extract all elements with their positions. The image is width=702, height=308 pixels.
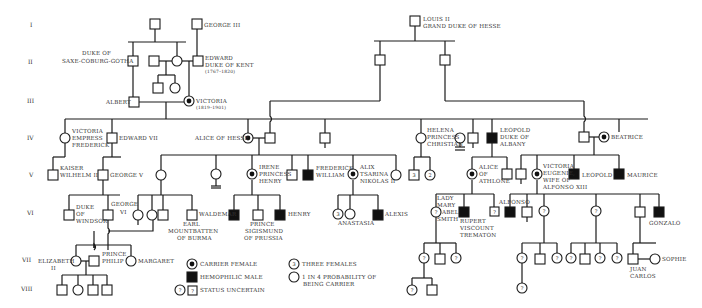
male-node-george-iii [192,19,202,29]
uncertain-mark: ? [543,208,546,214]
label-henry: HENRY [288,211,311,217]
legend-probability-carrier-icon [289,272,299,282]
uncertain-mark: ? [435,209,438,215]
label-saxe-coburg-gotha: SAXE-COBURG-GOTHA [62,58,134,64]
male-node-george-v [98,170,108,180]
label-juan-carlos-2: CARLOS [630,273,656,279]
label-alice-athlone-1: ALICE [478,164,498,170]
carrier-node-victoria [184,96,194,106]
label-albert: ALBERT [105,99,131,105]
label-victoria-empress-3: FREDERICK [72,142,110,148]
generation-label-i: I [30,21,33,28]
generation-labels: I II III IV V VI VII VIII [20,21,35,292]
label-mountbatten-2: MOUNTBATTEN [168,228,218,234]
female-node-gen-vi-a [133,210,143,220]
label-victoria-eugenie-4: ALFONSO XIII [542,184,587,190]
male-node-juan-carlos [628,254,638,264]
label-rupert-3: TREMATON [460,232,496,238]
uncertain-mark: ? [493,209,496,215]
count-two-females: 2 [428,172,431,178]
label-juan-carlos-1: JUAN [629,266,647,273]
label-mountbatten-3: OF BURMA [177,235,212,241]
male-node-mountbatten [187,210,197,220]
label-duke-windsor-3: WINDSOR [76,218,108,224]
legend-hemophilic-male-label: HEMOPHILIC MALE [200,274,263,280]
male-node-duke-of-windsor [64,210,74,220]
male-node-viii-b [88,285,98,295]
label-lady-mary-1: LADY [437,195,454,201]
label-helena-1: HELENA [427,127,455,133]
female-node-gen-vi-b [147,210,157,220]
label-edward-dates: (1767–1820) [205,69,235,74]
male-node-gen-ii [149,56,159,66]
label-edward-vii: EDWARD VII [119,135,158,141]
male-node-sigismund [253,210,263,220]
label-rupert-2: VISCOUNT [459,225,494,231]
label-duke-windsor-1: DUKE [76,204,94,210]
hemophilic-node-alexis [373,210,383,220]
generation-label-iii: III [27,97,35,104]
legend-status-uncertain-label: STATUS UNCERTAIN [200,287,265,293]
female-node-victoria-empress [60,133,70,143]
male-node-eugenie-son [522,207,532,217]
label-alix-3: NIKOLAS II [360,178,396,184]
hemophilic-node-alfonso [505,207,515,217]
label-rupert-1: RUPERT [460,218,486,224]
legend-three-females: 3 THREE FEMALES [289,259,357,269]
label-duke-of-kent: DUKE OF KENT [205,62,254,68]
uncertain-mark: ? [423,255,426,261]
label-irene-2: PRINCESS [259,171,292,177]
legend-hemophilic-male: HEMOPHILIC MALE [187,272,263,282]
legend-hemophilic-male-icon [187,272,197,282]
count-three-males: 3 [412,172,415,178]
uncertain-mark: ? [411,287,414,293]
label-alfonso: ALFONSO [498,199,530,205]
uncertain-mark: ? [599,255,602,261]
female-node-anastasia [345,209,355,219]
female-node-sophie [650,254,660,264]
male-node-gen-iv-b [468,133,478,143]
male-node-juan-carlos-father [635,207,645,217]
male-node-beatrice-son [516,169,526,179]
carrier-node-alice-athlone [467,169,477,179]
male-node-hesse-a [375,55,385,65]
label-victoria-eugenie-3: WIFE OF [543,177,571,183]
label-victoria-eugenie-2: EUGENIE, [543,170,575,176]
carrier-node-beatrice [599,132,609,142]
male-node-kaiser [48,170,58,180]
label-alix-1: ALIX [359,164,375,170]
legend-three-females-label: THREE FEMALES [302,261,357,267]
label-beatrice: BEATRICE [611,134,643,140]
label-elizabeth-2: II [51,265,56,271]
generation-label-iv: IV [27,134,34,141]
carrier-node-victoria-eugenie [532,169,542,179]
male-node-hesse-b [440,55,450,65]
label-leopold-albany-1: LEOPOLD [500,127,531,133]
hemophilic-node-frederick-william [303,170,313,180]
label-elizabeth-1: ELIZABETH [38,258,75,264]
generation-label-vi: VI [26,209,34,216]
label-alice-athlone-2: OF [479,171,488,177]
female-node-helena [416,133,426,143]
male-node-viii-a [57,285,67,295]
male-node-gen-i [150,19,160,29]
label-victoria-empress-2: EMPRESS [72,135,103,141]
uncertain-mark: ? [616,255,619,261]
label-philip-2: PHILIP [102,258,124,264]
label-victoria-dates: (1819–1901) [196,105,226,110]
male-node-vii-b [535,254,545,264]
uncertain-mark: ? [570,255,573,261]
male-node-gen-vi [158,210,168,220]
label-sigismund-2: SIGISMUND [245,228,283,234]
label-louis-ii: LOUIS II [423,16,450,22]
label-maurice: MAURICE [627,172,658,178]
female-node-gen-ii [172,56,182,66]
label-george-iii: GEORGE III [204,22,240,28]
hemophilic-node-rupert [459,207,469,217]
uncertain-mark: ? [455,255,458,261]
label-sigismund-3: OF PRUSSIA [244,235,284,241]
female-node-viii [73,285,83,295]
legend-probability-label-1: 1 IN 4 PROBABILITY OF [302,274,376,280]
label-lady-mary-3: ABEL [441,209,459,215]
legend: CARRIER FEMALE HEMOPHILIC MALE ? ? STATU… [175,259,376,295]
